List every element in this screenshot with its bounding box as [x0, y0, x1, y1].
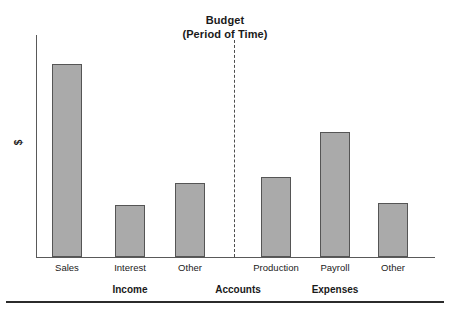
bar-sales-0: [52, 64, 82, 257]
bar-other-2: [175, 183, 205, 257]
bar-production-3: [261, 177, 291, 257]
bar-interest-1: [115, 205, 145, 257]
x-axis-line: [36, 257, 435, 258]
category-label-2: Other: [140, 262, 240, 274]
bar-payroll-4: [320, 132, 350, 257]
group-label-expenses: Expenses: [275, 283, 395, 296]
income-expenses-divider: [234, 40, 235, 257]
y-axis-line: [36, 35, 37, 257]
group-label-income: Income: [70, 283, 190, 296]
category-label-5: Other: [343, 262, 443, 274]
y-axis-label: $: [13, 133, 24, 153]
plot-area: $ SalesInterestOtherProductionPayrollOth…: [0, 0, 450, 312]
bottom-divider-rule: [6, 301, 444, 303]
chart-page: Budget (Period of Time) $ SalesInterestO…: [0, 0, 450, 312]
bar-other-5: [378, 203, 408, 257]
